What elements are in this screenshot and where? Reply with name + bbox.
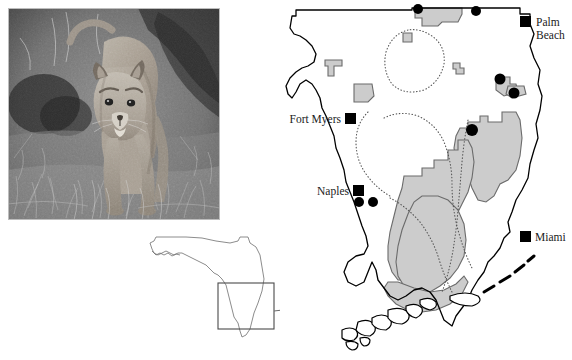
record-dot xyxy=(413,4,423,14)
dotted-boundary-west xyxy=(356,112,390,196)
dotted-boundary-lake xyxy=(385,30,444,92)
record-dot xyxy=(466,124,478,136)
upper-keys-dashes xyxy=(484,256,534,292)
city-marker-fort-myers xyxy=(345,113,356,124)
panther-photo-image xyxy=(8,8,220,220)
city-label-palm-beach-line2: Beach xyxy=(536,29,565,41)
city-label-palm-beach-line1: Palm xyxy=(536,16,560,28)
protected-areas xyxy=(325,8,526,312)
record-dot xyxy=(354,197,364,207)
protected-area-west-block xyxy=(354,84,374,102)
city-label-miami: Miami xyxy=(535,231,566,243)
record-dot xyxy=(509,88,520,99)
city-marker-naples xyxy=(353,185,364,196)
florida-inset-map xyxy=(140,225,280,340)
inset-pointer-arrow xyxy=(274,277,280,311)
record-dot xyxy=(368,197,378,207)
city-marker-palm-beach xyxy=(520,16,531,27)
figure-root: Palm Beach Fort Myers Naples Miami xyxy=(0,0,572,360)
florida-state-outline xyxy=(150,237,264,337)
record-dot xyxy=(471,6,481,16)
protected-area-west-strip xyxy=(325,60,342,76)
protected-area-lake-site xyxy=(403,33,412,42)
panther-photo xyxy=(8,8,220,220)
city-marker-miami xyxy=(520,231,531,242)
city-label-fort-myers: Fort Myers xyxy=(290,113,342,126)
record-dot xyxy=(495,74,506,85)
study-area-box xyxy=(218,283,274,329)
protected-area-small-mid xyxy=(453,63,464,74)
south-florida-map: Palm Beach Fort Myers Naples Miami xyxy=(272,0,572,360)
florida-panhandle-detail xyxy=(152,251,180,256)
city-label-naples: Naples xyxy=(317,185,349,198)
